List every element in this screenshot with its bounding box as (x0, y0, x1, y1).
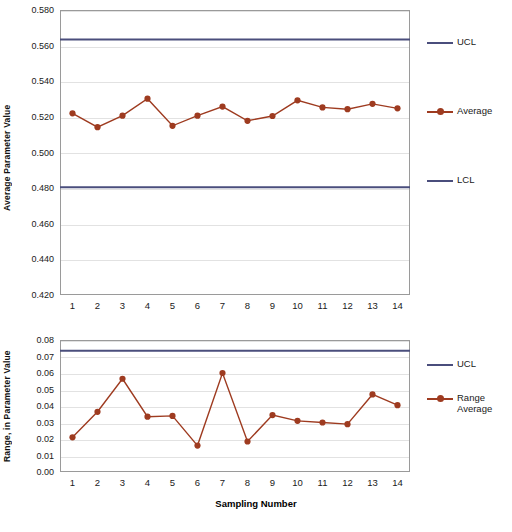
legend-item-ucl: UCL (427, 358, 476, 370)
legend-item-average: Average (427, 105, 492, 117)
legend-label-range-average-line2: Average (457, 403, 492, 414)
range-control-chart: Range, in Parameter Value 0.080.070.060.… (0, 330, 512, 532)
legend-key-marker-icon (427, 394, 453, 404)
legend-key-line-icon (427, 360, 453, 370)
limit-line-swatch (427, 180, 453, 182)
limit-line-swatch (427, 364, 453, 366)
legend-label-lcl: LCL (457, 174, 474, 185)
legend-bottom: UCL Range Average (0, 330, 512, 532)
series-marker-swatch (437, 395, 444, 402)
legend-key-line-icon (427, 38, 453, 48)
limit-line-swatch (427, 42, 453, 44)
series-marker-swatch (437, 108, 444, 115)
legend-key-line-icon (427, 176, 453, 186)
legend-item-range-average: Range Average (427, 392, 492, 414)
legend-top: UCL Average LCL (0, 0, 512, 325)
legend-label-ucl: UCL (457, 36, 476, 47)
legend-item-lcl: LCL (427, 174, 474, 186)
legend-label-range-average: Range Average (457, 392, 492, 414)
legend-label-range-average-line1: Range (457, 392, 485, 403)
legend-label-ucl: UCL (457, 358, 476, 369)
x-bar-control-chart: Average Parameter Value 0.5800.5600.5400… (0, 0, 512, 325)
legend-item-ucl: UCL (427, 36, 476, 48)
legend-key-marker-icon (427, 107, 453, 117)
legend-label-average: Average (457, 105, 492, 116)
